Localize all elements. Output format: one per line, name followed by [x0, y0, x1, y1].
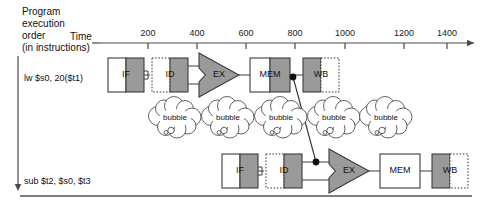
bubble-2-tail-1: [221, 127, 227, 133]
bubble-4: [308, 97, 361, 139]
bubble-3-tail-2: [270, 131, 274, 135]
program-label-line4: (in instructions): [22, 42, 90, 53]
forwarding-source-dot: [290, 74, 297, 81]
bubble-3-tail-1: [274, 127, 280, 133]
bubble-1-interior: [159, 109, 191, 127]
program-order-arrowhead: [15, 184, 21, 191]
sub-row-ID-left-half-dashed: [266, 154, 284, 188]
sub-row-IF-left-half: [222, 154, 240, 188]
program-label-line2: execution: [22, 18, 65, 29]
sub-row-MEM-box: [380, 154, 420, 188]
axis-tick-label-200: 200: [128, 28, 168, 38]
sub-row-ID-right-half: [284, 154, 302, 188]
bubble-4-interior: [318, 109, 350, 127]
time-axis-label: Time: [70, 31, 92, 42]
pipeline-diagram: Program execution order (in instructions…: [0, 0, 480, 203]
bubble-2-tail-2: [217, 131, 221, 135]
bubble-5-tail-1: [379, 127, 385, 133]
time-axis-arrowhead: [467, 40, 474, 46]
bubble-5: [360, 97, 413, 139]
sub-row-IF-right-half: [240, 154, 258, 188]
instruction-label-1: lw $s0, 20($t1): [24, 73, 83, 84]
lw-row-ID-left-half-dashed: [152, 58, 170, 92]
bubble-2-interior: [212, 109, 244, 127]
instruction-label-2: sub $t2, $s0, $t3: [24, 176, 91, 187]
axis-tick-label-400: 400: [177, 28, 217, 38]
axis-tick-label-1000: 1000: [325, 28, 365, 38]
lw-row-MEM-right-half: [270, 58, 290, 92]
bubble-1-tail-1: [168, 127, 174, 133]
bubble-4-tail-1: [327, 127, 333, 133]
bubble-2: [202, 97, 255, 139]
sub-row-WB-right-half-dashed: [450, 154, 468, 188]
axis-tick-label-800: 800: [275, 28, 315, 38]
lw-row-MEM-left-half: [250, 58, 270, 92]
bubble-1-tail-2: [164, 131, 168, 135]
program-label-line3: order: [22, 30, 45, 41]
lw-row-WB-right-half-dashed: [321, 58, 339, 92]
forwarding-dest-dot: [313, 159, 320, 166]
program-label-line1: Program: [22, 6, 60, 17]
axis-tick-label-1200: 1200: [384, 28, 424, 38]
bubble-3-interior: [265, 109, 297, 127]
bubble-5-interior: [370, 109, 402, 127]
sub-row-WB-left-half: [432, 154, 450, 188]
axis-tick-label-1400: 1400: [427, 28, 467, 38]
bubble-3: [255, 97, 308, 139]
lw-row-EX-alu-shape: [199, 53, 239, 97]
axis-tick-label-600: 600: [226, 28, 266, 38]
lw-row-IF-right-half: [126, 58, 144, 92]
bubble-1: [149, 97, 202, 139]
bubble-5-tail-2: [375, 131, 379, 135]
lw-row-WB-left-half: [303, 58, 321, 92]
lw-row-IF-left-half: [108, 58, 126, 92]
bubble-4-tail-2: [323, 131, 327, 135]
lw-row-ID-right-half: [170, 58, 188, 92]
sub-row-EX-alu-shape: [329, 149, 369, 193]
